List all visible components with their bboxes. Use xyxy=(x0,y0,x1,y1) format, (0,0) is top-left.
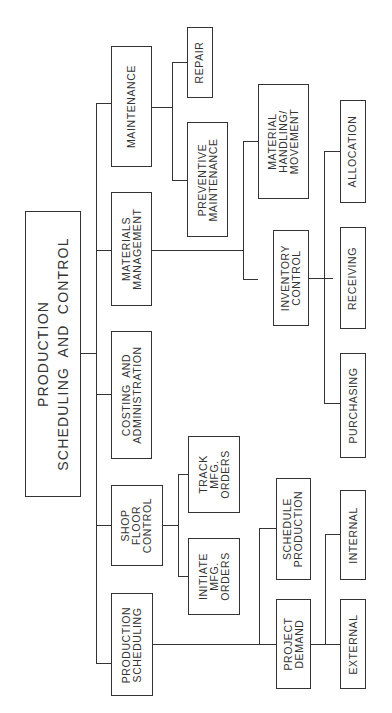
connector xyxy=(96,103,111,104)
node-label: TRACK MFG. ORDERS xyxy=(198,450,231,499)
connector xyxy=(153,644,260,645)
connector xyxy=(81,353,96,354)
connector xyxy=(96,250,111,251)
node-costing-and-administration: COSTING AND ADMINISTRATION xyxy=(111,331,152,459)
node-label: SCHEDULE PRODUCTION xyxy=(283,491,305,568)
root-label: PRODUCTION SCHEDULING AND CONTROL xyxy=(33,237,73,470)
node-label: MATERIALS MANAGEMENT xyxy=(121,208,143,289)
connector xyxy=(178,474,179,576)
node-schedule-production: SCHEDULE PRODUCTION xyxy=(276,478,311,580)
connector xyxy=(243,141,244,279)
connector xyxy=(243,279,258,280)
connector xyxy=(324,403,340,404)
node-label: MATERIAL HANDLING/ MOVEMENT xyxy=(267,109,300,174)
node-label: PURCHASING xyxy=(348,367,359,443)
connector xyxy=(259,528,260,645)
root-node-production-scheduling-and-control: PRODUCTION SCHEDULING AND CONTROL xyxy=(25,211,81,497)
node-shop-floor-control: SHOP FLOOR CONTROL xyxy=(111,485,163,566)
connector xyxy=(178,576,188,577)
node-maintenance: MAINTENANCE xyxy=(111,46,152,167)
node-label: REPAIR xyxy=(195,42,206,84)
node-allocation: ALLOCATION xyxy=(340,100,366,203)
connector xyxy=(324,151,340,152)
node-material-handling-movement: MATERIAL HANDLING/ MOVEMENT xyxy=(258,84,309,199)
node-label: INITIATE MFG. ORDERS xyxy=(198,552,231,601)
node-inventory-control: INVENTORY CONTROL xyxy=(273,230,309,326)
node-repair: REPAIR xyxy=(187,27,213,98)
connector xyxy=(309,278,333,279)
node-label: ALLOCATION xyxy=(348,116,359,188)
node-external: EXTERNAL xyxy=(340,599,366,689)
node-label: PRODUCTION SCHEDULING xyxy=(121,606,143,683)
connector xyxy=(96,663,111,664)
node-internal: INTERNAL xyxy=(340,490,366,580)
node-label: MAINTENANCE xyxy=(126,65,137,148)
connector xyxy=(96,103,97,663)
connector xyxy=(259,528,276,529)
node-receiving: RECEIVING xyxy=(340,227,366,329)
node-materials-management: MATERIALS MANAGEMENT xyxy=(111,192,152,306)
node-initiate-mfg-orders: INITIATE MFG. ORDERS xyxy=(188,538,240,615)
connector xyxy=(324,151,325,403)
node-label: INTERNAL xyxy=(348,507,359,564)
node-label: INVENTORY CONTROL xyxy=(280,245,302,311)
node-project-demand: PROJECT DEMAND xyxy=(276,599,311,689)
node-track-mfg-orders: TRACK MFG. ORDERS xyxy=(188,436,240,513)
connector xyxy=(325,644,340,645)
connector xyxy=(163,525,178,526)
node-label: EXTERNAL xyxy=(348,614,359,674)
connector xyxy=(96,394,111,395)
connector xyxy=(178,474,188,475)
connector xyxy=(172,180,187,181)
node-label: SHOP FLOOR CONTROL xyxy=(121,498,154,554)
node-label: PREVENTIVE MAINTENANCE xyxy=(197,138,219,221)
connector xyxy=(96,525,111,526)
connector xyxy=(243,141,258,142)
connector xyxy=(325,534,326,645)
node-purchasing: PURCHASING xyxy=(340,353,366,458)
node-label: COSTING AND ADMINISTRATION xyxy=(121,346,143,443)
node-preventive-maintenance: PREVENTIVE MAINTENANCE xyxy=(187,122,228,237)
connector xyxy=(259,644,276,645)
connector xyxy=(152,250,243,251)
connector xyxy=(172,62,173,180)
connector xyxy=(172,62,187,63)
node-label: PROJECT DEMAND xyxy=(283,617,305,670)
node-label: RECEIVING xyxy=(348,246,359,309)
node-production-scheduling: PRODUCTION SCHEDULING xyxy=(111,593,153,696)
connector xyxy=(311,644,325,645)
connector xyxy=(325,534,340,535)
connector xyxy=(152,107,172,108)
